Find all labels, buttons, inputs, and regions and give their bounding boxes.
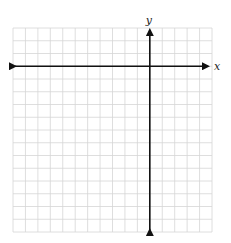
grid-lines xyxy=(13,28,212,232)
x-axis-label: x xyxy=(214,60,221,73)
coordinate-plane: x y xyxy=(0,0,231,243)
y-axis-label: y xyxy=(145,14,153,27)
